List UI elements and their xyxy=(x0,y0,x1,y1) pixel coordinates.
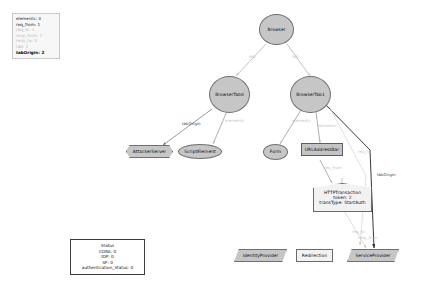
node-form[interactable]: Form xyxy=(263,144,288,160)
node-attacker-server-label: AttackerServer xyxy=(133,149,166,154)
node-service-provider-label: ServiceProvider xyxy=(355,253,390,258)
edge-label-req-from: req_from xyxy=(324,166,342,171)
edge-tab0-scriptelement xyxy=(213,111,227,144)
edge-label-resp-from: resp_from xyxy=(358,236,378,241)
node-identity-provider-label: IdentityProvider xyxy=(243,253,279,258)
edge-tab1-form xyxy=(280,110,301,144)
node-identity-provider[interactable]: IdentityProvider xyxy=(234,249,287,262)
edge-label-tab-right: tab xyxy=(292,55,299,60)
node-browser-tab0[interactable]: BrowserTab0 xyxy=(209,76,250,113)
node-script-element[interactable]: ScriptElement xyxy=(178,144,222,159)
edge-label-taborigin-left: tabOrigin xyxy=(182,122,201,127)
edge-browser-tab1 xyxy=(287,44,310,76)
node-form-label: Form xyxy=(270,149,281,154)
edge-label-taborigin-right: tabOrigin xyxy=(377,173,396,178)
edge-label-req-to-upper: req_to xyxy=(358,150,371,155)
node-url-address-bar[interactable]: URLAddressBar xyxy=(301,143,343,156)
edge-browser-tab0 xyxy=(236,44,266,76)
status-box[interactable]: Status CORA: 0 IDP: 0 SP: 0 authenticati… xyxy=(70,239,145,275)
node-attacker-server[interactable]: AttackerServer xyxy=(126,145,173,158)
edge-label-elements-form: elements xyxy=(292,119,310,124)
edge-label-tab-left: tab xyxy=(249,55,256,60)
edge-label-elements-tab0: elements xyxy=(225,119,243,124)
edge-tab0-attackerserver xyxy=(163,109,212,145)
node-browser-tab1[interactable]: BrowserTab1 xyxy=(290,76,331,113)
node-url-address-bar-label: URLAddressBar xyxy=(305,147,339,152)
edge-label-elements-url: elements xyxy=(317,124,335,129)
node-script-element-label: ScriptElement xyxy=(184,149,216,154)
edge-urladdressbar-httptransaction xyxy=(320,160,332,183)
node-redirection-label: Redirection xyxy=(302,253,327,258)
node-redirection[interactable]: Redirection xyxy=(296,249,333,262)
node-browser-label: Browser xyxy=(267,27,285,32)
graph-canvas: elements: 3 req_from: 1 req_to: 1 resp_f… xyxy=(0,0,427,293)
node-service-provider[interactable]: ServiceProvider xyxy=(347,249,399,262)
node-browser[interactable]: Browser xyxy=(259,14,294,45)
node-browser-tab0-label: BrowserTab0 xyxy=(215,92,244,97)
node-browser-tab1-label: BrowserTab1 xyxy=(296,92,325,97)
node-http-transaction[interactable]: HTTPTransaction token: 2 transType: Star… xyxy=(313,183,372,212)
node-http-transaction-transtype: transType: StartAuth xyxy=(319,200,365,205)
edge-label-req-to-lower: req_to xyxy=(352,230,365,235)
status-line-authentication: authentication_Status: 0 xyxy=(82,265,133,271)
